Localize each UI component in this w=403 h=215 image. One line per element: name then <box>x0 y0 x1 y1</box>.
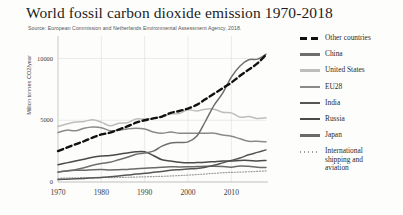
y-tick-10000: 10000 <box>19 55 53 62</box>
legend-swatch-icon <box>300 33 320 44</box>
legend-swatch-icon <box>300 49 320 60</box>
chart-legend: Other countriesChinaUnited StatesEU28Ind… <box>300 33 403 174</box>
legend-item-russia[interactable]: Russia <box>300 114 403 126</box>
legend-item-united-states[interactable]: United States <box>300 65 403 77</box>
legend-item-japan[interactable]: Japan <box>300 130 403 142</box>
x-tick-1980: 1980 <box>84 188 118 197</box>
legend-item-india[interactable]: India <box>300 98 403 110</box>
legend-item-label: Russia <box>325 114 345 123</box>
y-tick-5000: 5000 <box>19 116 53 123</box>
legend-item-label: India <box>325 98 340 107</box>
legend-item-label: International shipping and aviation <box>325 146 387 172</box>
legend-item-other-countries[interactable]: Other countries <box>300 33 403 45</box>
legend-swatch-icon <box>300 98 320 109</box>
legend-swatch-icon <box>300 65 320 76</box>
legend-item-china[interactable]: China <box>300 49 403 61</box>
legend-swatch-icon <box>300 82 320 93</box>
chart-page: World fossil carbon dioxide emission 197… <box>0 0 403 215</box>
legend-item-international-shipping-and-aviation[interactable]: International shipping and aviation <box>300 146 403 172</box>
legend-item-label: Japan <box>325 130 342 139</box>
legend-item-label: EU28 <box>325 82 342 91</box>
legend-swatch-icon <box>300 146 320 157</box>
legend-swatch-icon <box>300 130 320 141</box>
legend-item-label: Other countries <box>325 33 371 42</box>
legend-item-label: China <box>325 49 343 58</box>
y-tick-0: 0 <box>19 178 53 185</box>
legend-item-label: United States <box>325 65 365 74</box>
x-tick-1970: 1970 <box>41 188 75 197</box>
legend-swatch-icon <box>300 114 320 125</box>
legend-item-eu28[interactable]: EU28 <box>300 82 403 94</box>
x-tick-1990: 1990 <box>128 188 162 197</box>
x-tick-2000: 2000 <box>171 188 205 197</box>
x-tick-2010: 2010 <box>214 188 248 197</box>
